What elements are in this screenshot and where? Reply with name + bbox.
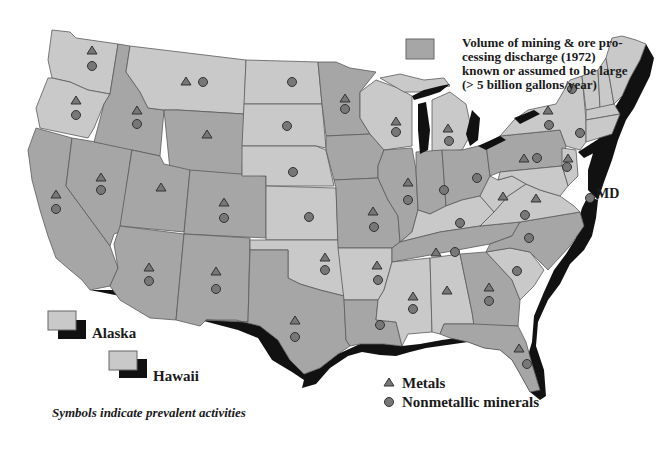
legend-line-2: cessing discharge (1972) — [462, 50, 662, 64]
nonmetallic-icon — [404, 196, 413, 205]
legend-nonmetallic-label: Nonmetallic minerals — [402, 394, 539, 411]
nonmetallic-icon — [72, 111, 81, 120]
nonmetallic-icon — [133, 120, 142, 129]
md-nonmetallic-icon — [586, 194, 595, 203]
legend-line-4: (> 5 billion gallons/year) — [462, 78, 662, 92]
state-wy — [164, 110, 244, 176]
caption: Symbols indicate prevalent activities — [52, 405, 246, 421]
legend-shaded-description: Volume of mining & ore pro- cessing disc… — [462, 36, 662, 92]
legend-metals-icon — [384, 378, 394, 386]
nonmetallic-icon — [521, 211, 530, 220]
nonmetallic-icon — [576, 129, 585, 138]
alaska-label: Alaska — [92, 325, 136, 342]
nonmetallic-icon — [212, 285, 221, 294]
state-fl — [440, 324, 540, 392]
nonmetallic-icon — [563, 163, 572, 172]
nonmetallic-icon — [291, 333, 300, 342]
nonmetallic-icon — [88, 62, 97, 71]
nonmetallic-icon — [525, 234, 534, 243]
state-ks — [266, 186, 338, 240]
nonmetallic-icon — [392, 128, 401, 137]
nonmetallic-icon — [473, 174, 482, 183]
hawaii-inset — [109, 351, 147, 378]
nonmetallic-icon — [409, 305, 418, 314]
nonmetallic-icon — [376, 321, 385, 330]
nonmetallic-icon — [341, 105, 350, 114]
nonmetallic-icon — [97, 186, 106, 195]
nonmetallic-icon — [199, 78, 208, 87]
nonmetallic-icon — [440, 186, 449, 195]
alaska-inset — [48, 311, 86, 339]
md-callout-label: MD — [596, 186, 619, 202]
hawaii-label: Hawaii — [153, 368, 199, 385]
state-nd — [244, 60, 322, 104]
nonmetallic-icon — [289, 168, 298, 177]
nonmetallic-icon — [545, 121, 554, 130]
nonmetallic-icon — [485, 297, 494, 306]
state-az — [110, 226, 184, 320]
nonmetallic-icon — [456, 219, 465, 228]
nonmetallic-icon — [370, 223, 379, 232]
legend-metals-label: Metals — [402, 375, 445, 392]
nonmetallic-icon — [445, 137, 454, 146]
state-in — [416, 150, 446, 214]
state-ia — [326, 134, 384, 180]
nonmetallic-icon — [451, 248, 460, 257]
legend-line-1: Volume of mining & ore pro- — [462, 36, 662, 50]
nonmetallic-icon — [283, 122, 292, 131]
nonmetallic-icon — [523, 360, 532, 369]
nonmetallic-icon — [513, 267, 522, 276]
nonmetallic-icon — [305, 213, 314, 222]
nonmetallic-icon — [145, 277, 154, 286]
nonmetallic-icon — [321, 266, 330, 275]
state-nm — [176, 234, 250, 326]
nonmetallic-icon — [220, 214, 229, 223]
legend-line-3: known or assumed to be large — [462, 64, 662, 78]
legend-shaded-box — [406, 39, 434, 59]
legend-nonmetallic-icon — [385, 398, 394, 407]
nonmetallic-icon — [374, 276, 383, 285]
nonmetallic-icon — [533, 154, 542, 163]
nonmetallic-icon — [52, 205, 61, 214]
nonmetallic-icon — [288, 78, 297, 87]
